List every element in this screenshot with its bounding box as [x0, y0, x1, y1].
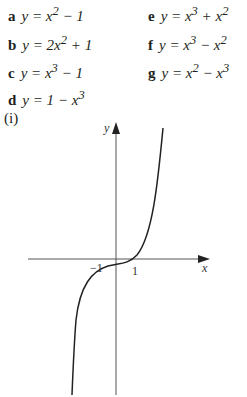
y-axis-label: y [103, 121, 110, 135]
x-axis-label: x [201, 261, 208, 275]
cubic-graph: y x −1 1 [0, 0, 247, 397]
tick-label-1: 1 [132, 264, 138, 278]
y-axis-arrow-icon [112, 122, 120, 134]
curve [72, 128, 163, 395]
tick-label-neg1: −1 [90, 261, 103, 275]
